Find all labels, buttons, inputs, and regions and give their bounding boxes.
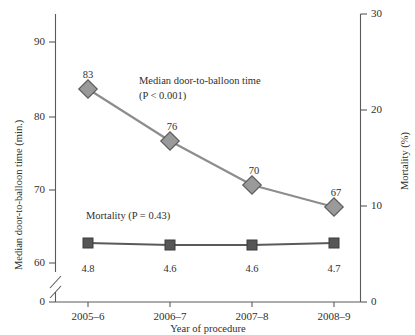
dtb-point-label-2008-9: 67	[331, 188, 342, 199]
dtb-point-label-2005-6: 83	[83, 70, 94, 81]
left-tick-label-70: 70	[34, 184, 45, 195]
bottom-tick-label-2007-8: 2007–8	[236, 311, 269, 322]
bottom-tick-label-2005-6: 2005–6	[72, 311, 105, 322]
mortality-series-line	[88, 243, 334, 245]
bottom-tick-label-2006-7: 2006–7	[154, 311, 187, 322]
right-axis-title: Mortality (%)	[400, 132, 411, 190]
mortality-point-label-2008-9: 4.7	[327, 264, 340, 275]
dtb-series-line	[88, 89, 334, 207]
dtb-marker-2005	[79, 80, 97, 98]
mortality-marker-2007	[247, 240, 257, 250]
dtb-marker-2007	[243, 176, 261, 194]
axis-break-slash-1	[50, 276, 61, 288]
mortality-marker-2008	[329, 238, 339, 248]
right-tick-label-20: 20	[371, 104, 382, 115]
dtb-annotation-line2: (P < 0.001)	[139, 91, 186, 102]
dtb-point-label-2007-8: 70	[249, 166, 260, 177]
bottom-tick-label-2008-9: 2008–9	[318, 311, 351, 322]
right-tick-label-30: 30	[371, 8, 382, 19]
dtb-point-label-2006-7: 76	[167, 122, 178, 133]
bottom-axis-title: Year of procedure	[170, 324, 245, 335]
right-tick-label-10: 10	[371, 200, 382, 211]
mortality-annotation-line1: Mortality (P = 0.43)	[86, 211, 170, 222]
mortality-point-label-2007-8: 4.6	[245, 264, 258, 275]
mortality-point-label-2006-7: 4.6	[163, 264, 176, 275]
left-tick-label-0: 0	[40, 296, 46, 307]
dtb-marker-2008	[325, 198, 343, 216]
dtb-marker-2006	[161, 132, 179, 150]
mortality-point-label-2005-6: 4.8	[81, 264, 94, 275]
dtb-marker-group	[79, 80, 343, 216]
left-tick-label-60: 60	[34, 257, 45, 268]
right-tick-label-0: 0	[371, 296, 377, 307]
mortality-marker-2005	[83, 238, 93, 248]
left-tick-label-90: 90	[34, 36, 45, 47]
left-tick-label-80: 80	[34, 111, 45, 122]
left-axis-title: Median door-to-balloon time (min.)	[14, 120, 25, 270]
dtb-annotation-line1: Median door-to-balloon time	[139, 76, 261, 87]
mortality-marker-2006	[165, 240, 175, 250]
